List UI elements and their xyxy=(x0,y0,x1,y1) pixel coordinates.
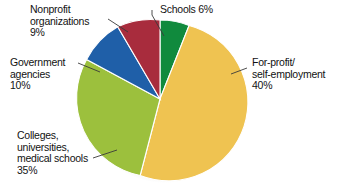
slice-label-colleges-value: 35% xyxy=(17,165,88,177)
slice-label-nonprofit: Nonprofit organizations 9% xyxy=(30,4,89,39)
pie-chart-figure: Nonprofit organizations 9% Government ag… xyxy=(0,0,340,190)
slice-label-nonprofit-line1: Nonprofit xyxy=(30,4,89,16)
slice-label-colleges-line1: Colleges, xyxy=(17,130,88,142)
slice-label-for-profit-line1: For-profit/ xyxy=(252,57,325,69)
slice-label-schools: Schools 6% xyxy=(160,4,213,16)
slice-label-schools-line1: Schools 6% xyxy=(160,4,213,16)
slice-label-government-line1: Government xyxy=(10,57,65,69)
slice-label-colleges: Colleges, universities, medical schools … xyxy=(17,130,88,176)
slice-label-government: Government agencies 10% xyxy=(10,57,65,92)
slice-label-government-value: 10% xyxy=(10,80,65,92)
slice-label-nonprofit-value: 9% xyxy=(30,27,89,39)
slice-label-for-profit-value: 40% xyxy=(252,80,325,92)
slice-label-for-profit: For-profit/ self-employment 40% xyxy=(252,57,325,92)
